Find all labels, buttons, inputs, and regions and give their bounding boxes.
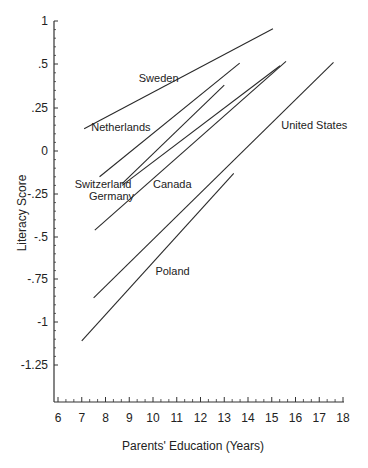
x-tick-label: 14 [241, 411, 255, 425]
series-label-switzerland: Switzerland [75, 178, 132, 190]
y-tick-label: -1.25 [21, 358, 49, 372]
line-chart: 1.5.250-.25-.5-.75-1-1.25678910111213141… [0, 0, 368, 468]
x-tick-label: 10 [146, 411, 160, 425]
series-line-sweden [84, 29, 273, 129]
y-tick-label: -.75 [27, 272, 48, 286]
y-tick-label: .5 [38, 57, 48, 71]
series-label-united-states: United States [281, 119, 348, 131]
x-tick-label: 16 [289, 411, 303, 425]
x-tick-label: 12 [194, 411, 208, 425]
y-tick-label: -.25 [27, 187, 48, 201]
x-tick-label: 18 [336, 411, 350, 425]
series-line-canada [95, 61, 286, 230]
series-label-sweden: Sweden [139, 72, 179, 84]
x-tick-label: 8 [102, 411, 109, 425]
y-axis-label: Literacy Score [15, 174, 29, 251]
x-tick-label: 9 [126, 411, 133, 425]
x-axis-label: Parents' Education (Years) [122, 439, 264, 453]
x-tick-label: 11 [171, 411, 184, 425]
y-tick-label: -.5 [34, 230, 48, 244]
y-tick-label: .25 [31, 101, 48, 115]
chart-svg: 1.5.250-.25-.5-.75-1-1.25678910111213141… [0, 0, 368, 468]
series-label-canada: Canada [153, 178, 192, 190]
series-label-netherlands: Netherlands [91, 121, 151, 133]
series-labels: SwedenNetherlandsSwitzerlandGermanyCanad… [75, 72, 348, 277]
x-tick-label: 13 [218, 411, 232, 425]
series-label-poland: Poland [155, 265, 189, 277]
x-tick-label: 6 [55, 411, 62, 425]
y-tick-label: 1 [41, 14, 48, 28]
x-tick-label: 15 [265, 411, 279, 425]
x-tick-label: 17 [313, 411, 327, 425]
y-tick-label: -1 [37, 315, 48, 329]
y-tick-label: 0 [41, 144, 48, 158]
x-tick-label: 7 [78, 411, 85, 425]
series-label-germany: Germany [89, 190, 135, 202]
